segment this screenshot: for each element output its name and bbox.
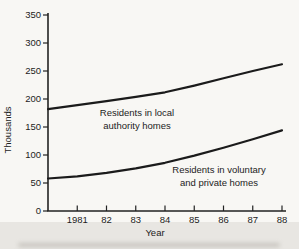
x-tick-label: 84 xyxy=(160,214,171,225)
chart-page: 350300250200150100500 198182838485868788… xyxy=(0,0,299,249)
y-axis-title: Thousands xyxy=(2,106,13,153)
x-tick-label: 87 xyxy=(247,214,258,225)
series-line-1 xyxy=(48,64,282,109)
y-tick-label: 250 xyxy=(25,65,41,76)
x-tick-label: 82 xyxy=(101,214,112,225)
y-tick-label: 100 xyxy=(25,149,41,160)
x-tick-label: 86 xyxy=(218,214,229,225)
y-tick-label: 150 xyxy=(25,121,41,132)
series1-label-line2: authority homes xyxy=(103,120,171,131)
x-tick-label: 1981 xyxy=(67,214,88,225)
x-axis: 198182838485868788 xyxy=(47,206,287,225)
series2-label-line1: Residents in voluntary xyxy=(172,164,266,175)
x-tick-label: 85 xyxy=(189,214,200,225)
x-axis-title: Year xyxy=(145,227,164,238)
x-tick-label: 88 xyxy=(277,214,288,225)
series1-label-line1: Residents in local xyxy=(100,107,174,118)
line-chart: 350300250200150100500 198182838485868788… xyxy=(0,0,299,249)
annotations: Residents in local authority homes Resid… xyxy=(100,107,266,188)
y-tick-label: 300 xyxy=(25,37,41,48)
y-axis: 350300250200150100500 xyxy=(25,9,48,216)
y-tick-label: 200 xyxy=(25,93,41,104)
x-tick-label: 83 xyxy=(130,214,141,225)
y-tick-label: 50 xyxy=(30,177,41,188)
y-tick-label: 0 xyxy=(36,205,41,216)
series2-label-line2: and private homes xyxy=(180,177,258,188)
y-tick-label: 350 xyxy=(25,9,41,20)
